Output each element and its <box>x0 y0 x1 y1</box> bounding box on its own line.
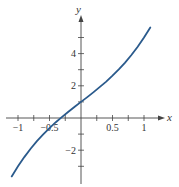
y-axis-arrow-icon <box>79 15 84 22</box>
y-axis: −224 y <box>65 3 84 184</box>
x-axis: −1−0.50.51 x <box>6 111 172 133</box>
x-tick-label: 0.5 <box>106 122 119 133</box>
x-axis-label: x <box>166 111 172 123</box>
x-tick-label: −1 <box>13 122 24 133</box>
x-axis-arrow-icon <box>158 116 165 121</box>
y-axis-label: y <box>75 3 81 15</box>
y-tick-label: 2 <box>71 80 76 91</box>
y-tick-label: 4 <box>71 48 76 59</box>
x-tick-label: 1 <box>142 122 147 133</box>
function-plot: −1−0.50.51 x −224 y <box>0 0 179 187</box>
y-tick-label: −2 <box>65 145 76 156</box>
